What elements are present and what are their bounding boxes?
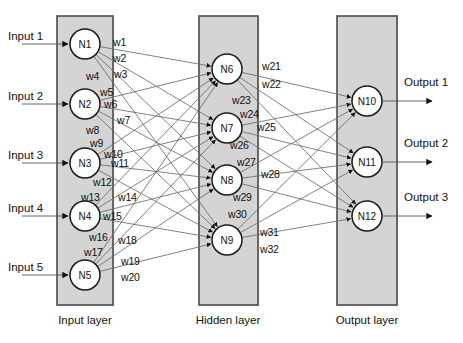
weight-label-w24: w24 [240, 108, 259, 120]
neuron-label: N5 [79, 270, 92, 281]
weight-label-w26: w26 [230, 139, 249, 151]
edge-N5-N9 [100, 244, 211, 271]
weight-label-w6: w6 [104, 98, 117, 110]
weight-label-w13: w13 [81, 191, 100, 203]
neuron-label: N7 [221, 123, 234, 134]
weight-label-w28: w28 [261, 168, 280, 180]
neuron-n5[interactable]: N5 [70, 260, 100, 290]
weight-label-w21: w21 [262, 60, 281, 72]
neuron-n4[interactable]: N4 [70, 201, 100, 231]
layer-caption-output: Output layer [333, 314, 401, 326]
weight-label-w20: w20 [121, 271, 140, 283]
weight-label-w32: w32 [260, 243, 279, 255]
weight-label-w4: w4 [86, 70, 99, 82]
weight-label-w2: w2 [113, 52, 126, 64]
weight-label-w1: w1 [113, 36, 126, 48]
neuron-n3[interactable]: N3 [70, 148, 100, 178]
weight-label-w5: w5 [100, 86, 113, 98]
weight-label-w25: w25 [257, 121, 276, 133]
neuron-label: N3 [79, 158, 92, 169]
output-label-3: Output 3 [404, 191, 448, 203]
edge-N5-N8 [98, 189, 213, 266]
neuron-label: N11 [358, 157, 376, 168]
weight-label-w7: w7 [117, 114, 130, 126]
weight-label-w31: w31 [260, 226, 279, 238]
weight-label-w12: w12 [93, 176, 112, 188]
output-label-2: Output 2 [404, 137, 448, 149]
output-label-1: Output 1 [404, 76, 448, 88]
weight-label-w16: w16 [89, 231, 108, 243]
weight-label-w19: w19 [121, 255, 140, 267]
weight-label-w11: w11 [111, 157, 129, 169]
weight-label-w9: w9 [90, 137, 103, 149]
layer-caption-hidden: Hidden layer [194, 314, 262, 326]
weight-label-w17: w17 [84, 246, 103, 258]
neuron-label: N9 [221, 235, 234, 246]
weight-label-w15: w15 [103, 210, 122, 222]
neuron-label: N12 [358, 211, 377, 222]
neuron-n12[interactable]: N12 [352, 201, 382, 231]
input-label-5: Input 5 [8, 261, 43, 273]
neuron-n6[interactable]: N6 [212, 54, 242, 84]
weight-label-w22: w22 [262, 78, 281, 90]
neuron-n9[interactable]: N9 [212, 225, 242, 255]
neuron-n2[interactable]: N2 [70, 89, 100, 119]
weight-label-w3: w3 [114, 68, 127, 80]
weight-label-w30: w30 [228, 208, 247, 220]
neural-network-diagram: N1N2N3N4N5N6N7N8N9N10N11N12 Input 1Input… [0, 0, 463, 343]
edge-N4-N8 [100, 184, 211, 212]
input-label-3: Input 3 [8, 149, 43, 161]
neuron-label: N6 [221, 64, 234, 75]
neuron-label: N4 [79, 211, 92, 222]
neuron-n11[interactable]: N11 [352, 147, 382, 177]
neuron-label: N2 [79, 99, 92, 110]
neuron-label: N1 [79, 39, 92, 50]
input-label-1: Input 1 [8, 30, 43, 42]
neuron-n10[interactable]: N10 [352, 86, 382, 116]
input-label-2: Input 2 [8, 90, 43, 102]
weight-label-w18: w18 [118, 234, 137, 246]
neuron-label: N10 [358, 96, 377, 107]
weight-label-w23: w23 [232, 94, 251, 106]
weight-label-w27: w27 [237, 156, 256, 168]
input-label-4: Input 4 [8, 202, 43, 214]
weight-label-w8: w8 [86, 124, 99, 136]
layer-caption-input: Input layer [51, 314, 119, 326]
weight-label-w14: w14 [118, 191, 137, 203]
diagram-canvas: N1N2N3N4N5N6N7N8N9N10N11N12 [0, 0, 463, 343]
neuron-n1[interactable]: N1 [70, 29, 100, 59]
weight-label-w29: w29 [233, 191, 252, 203]
neuron-label: N8 [221, 175, 234, 186]
